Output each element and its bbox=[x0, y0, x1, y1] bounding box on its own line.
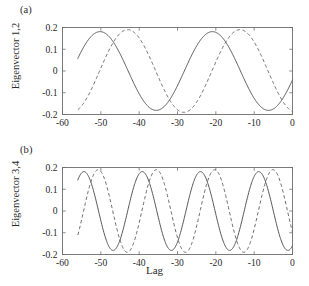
svg-text:0: 0 bbox=[53, 205, 58, 216]
panel-a: (a) Eigenvector 1,2 0.20.10-0.1-0.2 -60-… bbox=[0, 0, 309, 143]
svg-text:0.1: 0.1 bbox=[46, 44, 58, 55]
panel-b-curves bbox=[78, 170, 293, 253]
svg-text:-60: -60 bbox=[56, 117, 69, 128]
panel-a-tick-marks bbox=[63, 28, 293, 115]
svg-text:-30: -30 bbox=[171, 117, 184, 128]
figure-xlabel: Lag bbox=[0, 264, 309, 277]
svg-text:-0.1: -0.1 bbox=[42, 227, 57, 238]
svg-text:-20: -20 bbox=[209, 117, 222, 128]
svg-text:-10: -10 bbox=[248, 117, 261, 128]
panel-a-y-tick-labels: 0.20.10-0.1-0.2 bbox=[42, 22, 57, 120]
svg-text:-40: -40 bbox=[133, 117, 146, 128]
panel-a-frame bbox=[63, 28, 293, 115]
svg-text:0.2: 0.2 bbox=[46, 162, 58, 173]
panel-a-plot: 0.20.10-0.1-0.2 -60-50-40-30-20-100 bbox=[0, 0, 309, 146]
svg-text:0: 0 bbox=[53, 65, 58, 76]
figure: (a) Eigenvector 1,2 0.20.10-0.1-0.2 -60-… bbox=[0, 0, 309, 286]
svg-text:0.2: 0.2 bbox=[46, 22, 58, 33]
svg-text:0.1: 0.1 bbox=[46, 184, 58, 195]
panel-b-y-tick-labels: 0.20.10-0.1-0.2 bbox=[42, 162, 57, 260]
svg-text:0: 0 bbox=[290, 117, 295, 128]
svg-text:-50: -50 bbox=[94, 117, 107, 128]
svg-text:-0.1: -0.1 bbox=[42, 87, 57, 98]
panel-a-x-tick-labels: -60-50-40-30-20-100 bbox=[56, 117, 295, 128]
panel-a-curves bbox=[78, 30, 293, 113]
